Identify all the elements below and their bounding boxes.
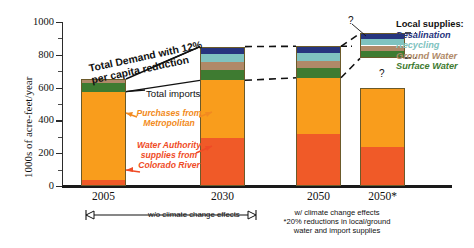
y-tick-400 — [56, 120, 62, 121]
y-tick-label-1000: 1000 — [12, 17, 54, 27]
purchases-line2: Metropolitan — [143, 118, 195, 128]
legend-title: Local supplies: — [396, 19, 464, 29]
y-tick-0 — [56, 186, 62, 187]
bar-2030-seg-desalination — [200, 47, 245, 54]
authority-line1: Water Authority — [137, 140, 201, 150]
footnote-with-climate-change: w/ climate change effects *20% reduction… — [262, 208, 412, 236]
y-tick-minor-500 — [58, 104, 62, 105]
bar-2050star-seg-colorado-river — [360, 147, 405, 186]
bar-2050-seg-surface-water — [296, 68, 341, 78]
bar-2030-seg-recycling — [200, 54, 245, 62]
y-tick-minor-900 — [58, 38, 62, 39]
y-axis-line — [62, 22, 63, 186]
legend-item-desalination: Desalination — [396, 30, 464, 40]
footnote-climate-line2: *20% reductions in local/ground — [262, 217, 412, 226]
bar-2030-seg-colorado-river — [200, 138, 245, 186]
y-tick-label-800: 800 — [12, 50, 54, 60]
y-tick-800 — [56, 55, 62, 56]
bar-2050star-imports — [360, 88, 405, 186]
purchases-line1: Purchases from — [137, 108, 202, 118]
y-tick-label-600: 600 — [12, 83, 54, 93]
bar-2050-seg-colorado-river — [296, 134, 341, 186]
y-tick-label-200: 200 — [12, 148, 54, 158]
bar-2005-seg-colorado-river — [81, 180, 126, 186]
y-tick-600 — [56, 88, 62, 89]
y-tick-label-400: 400 — [12, 115, 54, 125]
bar-2050-seg-recycling — [296, 53, 341, 61]
bar-2030 — [200, 47, 245, 186]
bar-2030-seg-surface-water — [200, 70, 245, 81]
y-tick-200 — [56, 153, 62, 154]
chart-container: 1000s of acre-feet/year 1000 800 600 400… — [0, 0, 474, 248]
y-tick-label-0: 0 — [12, 181, 54, 191]
legend-item-ground-water: Ground Water — [396, 51, 464, 61]
x-label-2030: 2030 — [197, 190, 248, 202]
colorado-river-callout: Water Authority supplies from Colorado R… — [136, 140, 202, 170]
x-label-2050: 2050 — [293, 190, 344, 202]
footnote-climate-line1: w/ climate change effects — [262, 208, 412, 217]
authority-line2: supplies from — [141, 150, 197, 160]
total-imports-label: Total imports — [146, 88, 200, 99]
demand-line-label: Total Demand with 12% per capita reducti… — [88, 39, 206, 86]
legend-item-recycling: Recycling — [396, 40, 464, 50]
y-tick-minor-300 — [58, 137, 62, 138]
x-label-2005: 2005 — [78, 190, 129, 202]
x-label-2050star: 2050* — [357, 190, 408, 202]
bar-2050-seg-desalination — [296, 46, 341, 53]
legend: Local supplies: Desalination Recycling G… — [396, 19, 464, 72]
bar-2050-seg-metropolitan — [296, 78, 341, 134]
bar-2030-seg-ground-water — [200, 62, 245, 69]
y-tick-1000 — [56, 22, 62, 23]
bar-2050star-seg-metropolitan — [360, 88, 405, 148]
bar-2005 — [81, 79, 126, 186]
bar-2030-seg-metropolitan — [200, 80, 245, 138]
y-tick-minor-700 — [58, 71, 62, 72]
bar-2005-seg-surface-water — [81, 83, 126, 91]
bar-2050 — [296, 46, 341, 186]
legend-item-surface-water: Surface Water — [396, 61, 464, 71]
question-mark-imports: ? — [379, 68, 385, 79]
y-tick-minor-100 — [58, 170, 62, 171]
purchases-metropolitan-callout: Purchases from Metropolitan — [136, 108, 202, 128]
footnote-no-climate-change: w/o climate change effects — [148, 210, 240, 219]
authority-line3: Colorado River — [138, 160, 200, 170]
bar-2005-seg-metropolitan — [81, 92, 126, 181]
bar-2050-seg-ground-water — [296, 61, 341, 68]
footnote-climate-line3: water and import supplies — [262, 226, 412, 235]
question-mark-local-supplies: ? — [348, 15, 354, 26]
